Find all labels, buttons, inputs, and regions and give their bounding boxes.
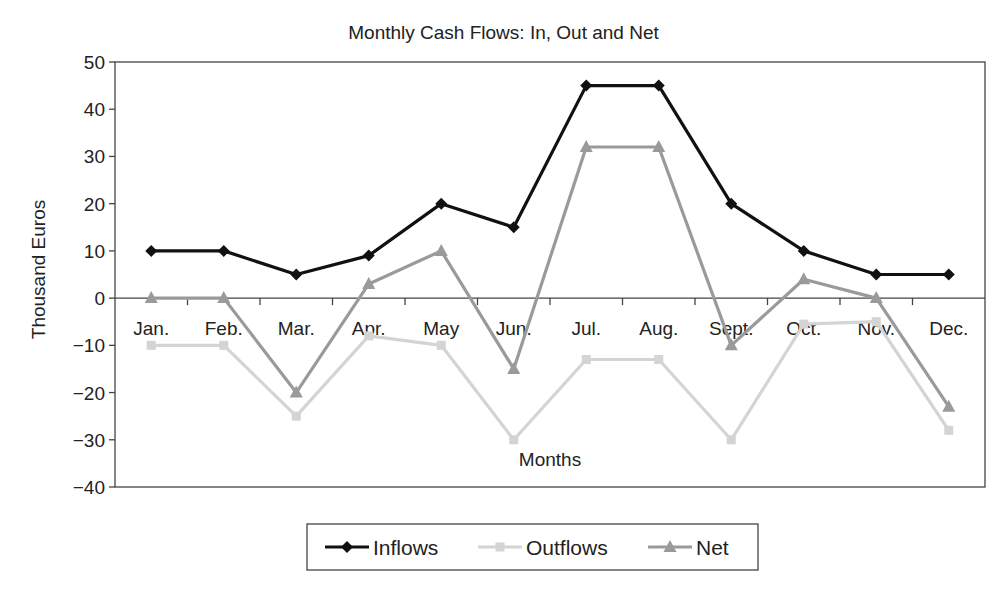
square-marker-icon [292,412,301,421]
diamond-marker-icon [290,269,302,281]
x-tick-label: Mar. [278,318,315,339]
legend-square-icon [496,543,505,552]
triangle-marker-icon [435,244,448,256]
y-tick-label: −30 [73,430,105,451]
x-tick-label: May [423,318,459,339]
y-axis-title: Thousand Euros [28,200,49,339]
diamond-marker-icon [580,80,592,92]
y-tick-label: 20 [84,194,105,215]
y-tick-label: 30 [84,146,105,167]
x-tick-label: Feb. [205,318,243,339]
y-tick-label: −40 [73,477,105,498]
square-marker-icon [727,435,736,444]
x-tick-label: Aug. [639,318,678,339]
legend-label-outflows: Outflows [526,536,608,559]
legend-label-net: Net [696,536,729,559]
square-marker-icon [799,320,808,329]
triangle-marker-icon [797,272,810,284]
y-tick-label: 0 [94,288,105,309]
square-marker-icon [147,341,156,350]
y-tick-label: 50 [84,52,105,73]
series-line-inflows [151,86,949,275]
x-tick-label: Sept. [709,318,753,339]
plot-frame [115,62,985,487]
series-line-outflows [151,322,949,440]
diamond-marker-icon [870,269,882,281]
y-tick-label: 10 [84,241,105,262]
square-marker-icon [582,355,591,364]
square-marker-icon [654,355,663,364]
x-tick-label: Jan. [133,318,169,339]
y-tick-label: −10 [73,335,105,356]
square-marker-icon [219,341,228,350]
diamond-marker-icon [943,269,955,281]
square-marker-icon [872,317,881,326]
x-axis-title: Months [519,449,581,470]
square-marker-icon [509,435,518,444]
square-marker-icon [364,331,373,340]
line-chart: 50403020100−10−20−30−40Jan.Feb.Mar.Apr.M… [0,0,1007,597]
square-marker-icon [944,426,953,435]
y-tick-label: −20 [73,383,105,404]
diamond-marker-icon [508,221,520,233]
diamond-marker-icon [145,245,157,257]
x-tick-label: Dec. [929,318,968,339]
legend-label-inflows: Inflows [373,536,438,559]
square-marker-icon [437,341,446,350]
series-line-net [151,147,949,407]
y-tick-label: 40 [84,99,105,120]
diamond-marker-icon [218,245,230,257]
x-tick-label: Jul. [571,318,601,339]
